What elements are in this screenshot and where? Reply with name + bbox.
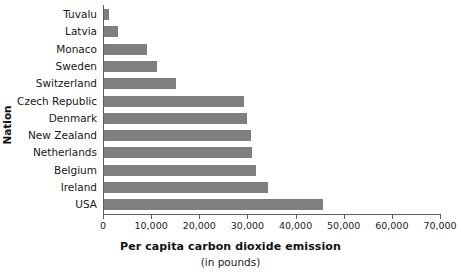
y-axis-tick-label: Netherlands: [33, 144, 97, 161]
y-axis-tick-label: Czech Republic: [17, 93, 97, 110]
y-axis-title: Nation: [0, 90, 14, 160]
x-axis-subtitle: (in pounds): [0, 256, 461, 268]
x-axis-tick-mark: [247, 214, 248, 219]
bar: [104, 147, 252, 158]
plot-area: [103, 6, 440, 214]
y-axis-tick-label: Tuvalu: [63, 6, 97, 23]
bar: [104, 61, 157, 72]
y-axis-tick-label: Switzerland: [36, 75, 97, 92]
x-axis-tick-label: 60,000: [375, 220, 408, 231]
x-axis-tick-label: 0: [100, 220, 106, 231]
x-axis-tick-mark: [151, 214, 152, 219]
y-axis-tick-label: New Zealand: [28, 127, 97, 144]
bar: [104, 165, 256, 176]
y-axis-tick-label: USA: [75, 196, 97, 213]
y-axis-tick-labels: TuvaluLatviaMonacoSwedenSwitzerlandCzech…: [14, 6, 100, 214]
bar: [104, 9, 109, 20]
x-axis-tick-mark: [296, 214, 297, 219]
x-axis-tick-label: 40,000: [279, 220, 312, 231]
x-axis-tick-labels: 010,00020,00030,00040,00050,00060,00070,…: [0, 220, 461, 234]
bar: [104, 26, 118, 37]
bar: [104, 199, 323, 210]
x-axis-tick-label: 20,000: [183, 220, 216, 231]
bar-chart: Nation TuvaluLatviaMonacoSwedenSwitzerla…: [0, 0, 461, 279]
x-axis-tick-label: 70,000: [423, 220, 456, 231]
y-axis-tick-label: Sweden: [56, 58, 98, 75]
x-axis-tick-mark: [344, 214, 345, 219]
x-axis-tick-mark: [392, 214, 393, 219]
y-axis-title-text: Nation: [1, 105, 13, 144]
bar: [104, 44, 147, 55]
y-axis-tick-label: Latvia: [65, 23, 97, 40]
x-axis-tick-label: 30,000: [231, 220, 264, 231]
y-axis-tick-label: Ireland: [61, 179, 97, 196]
x-axis-tick-label: 10,000: [135, 220, 168, 231]
bar: [104, 113, 247, 124]
y-axis-tick-label: Monaco: [56, 41, 97, 58]
y-axis-tick-label: Denmark: [49, 110, 97, 127]
x-axis-title: Per capita carbon dioxide emission: [0, 240, 461, 253]
x-axis-tick-mark: [440, 214, 441, 219]
bar: [104, 78, 176, 89]
bar: [104, 182, 268, 193]
x-axis-tick-mark: [199, 214, 200, 219]
x-axis-tick-label: 50,000: [327, 220, 360, 231]
bar: [104, 96, 244, 107]
bar: [104, 130, 251, 141]
y-axis-tick-label: Belgium: [54, 162, 97, 179]
x-axis-tick-marks: [103, 214, 441, 219]
x-axis-tick-mark: [103, 214, 104, 219]
